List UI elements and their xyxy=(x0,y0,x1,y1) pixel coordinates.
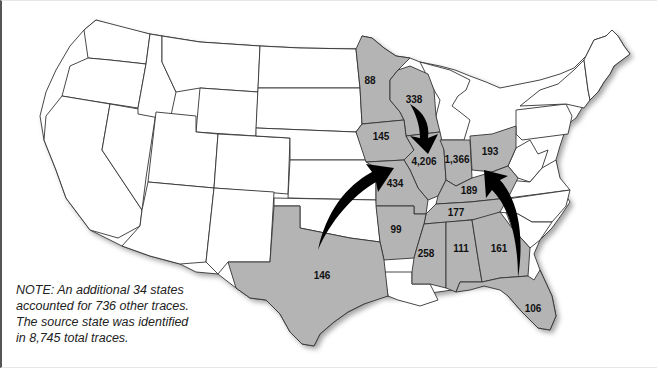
state-pennsylvania xyxy=(516,104,572,140)
label-tennessee: 177 xyxy=(448,207,465,218)
state-south-dakota xyxy=(256,88,362,132)
label-iowa: 145 xyxy=(373,131,390,142)
state-new-england xyxy=(584,30,630,100)
label-florida: 106 xyxy=(525,303,542,314)
label-wisconsin: 338 xyxy=(406,94,423,105)
label-illinois: 4,206 xyxy=(411,156,436,167)
label-ohio: 193 xyxy=(482,146,499,157)
label-missouri: 434 xyxy=(387,178,404,189)
note-line-4: in 8,745 total traces. xyxy=(16,330,256,346)
state-north-dakota xyxy=(258,46,360,88)
label-mississippi: 258 xyxy=(418,248,435,259)
note-line-3: The source state was identified xyxy=(16,314,256,330)
state-new-mexico xyxy=(206,188,274,274)
state-montana xyxy=(162,36,260,92)
note-line-2: accounted for 736 other traces. xyxy=(16,298,256,314)
state-washington xyxy=(84,20,150,64)
map-note: NOTE: An additional 34 states accounted … xyxy=(16,282,256,346)
label-kentucky: 189 xyxy=(461,185,478,196)
state-wyoming xyxy=(196,88,258,136)
note-line-1: NOTE: An additional 34 states xyxy=(16,282,256,298)
label-indiana: 1,366 xyxy=(444,154,469,165)
label-arkansas: 99 xyxy=(390,224,402,235)
label-alabama: 111 xyxy=(453,243,469,254)
state-colorado xyxy=(214,134,290,194)
label-georgia: 161 xyxy=(491,243,508,254)
label-minnesota: 88 xyxy=(364,75,376,86)
label-texas: 146 xyxy=(314,270,331,281)
